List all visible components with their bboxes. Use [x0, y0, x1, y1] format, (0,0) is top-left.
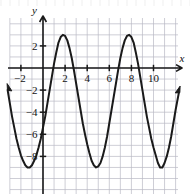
tick-labels: −22468102−2−4−6−8xy [14, 4, 185, 162]
y-tick-label-neg8: −8 [26, 150, 38, 162]
y-tick-label-neg4: −4 [26, 106, 38, 118]
x-tick-label-neg2: −2 [14, 72, 26, 84]
x-tick-label-2: 2 [62, 72, 68, 84]
function-graph: −22468102−2−4−6−8xy [0, 0, 190, 194]
x-tick-label-6: 6 [107, 72, 113, 84]
x-axis-label: x [179, 52, 185, 64]
y-tick-label-2: 2 [32, 40, 38, 52]
x-tick-label-4: 4 [84, 72, 90, 84]
y-tick-label-neg6: −6 [26, 128, 38, 140]
y-axis-label: y [31, 4, 37, 16]
x-tick-label-8: 8 [129, 72, 135, 84]
figure-container: −22468102−2−4−6−8xy [0, 0, 190, 194]
x-tick-label-10: 10 [148, 72, 160, 84]
y-tick-label-neg2: −2 [26, 84, 38, 96]
